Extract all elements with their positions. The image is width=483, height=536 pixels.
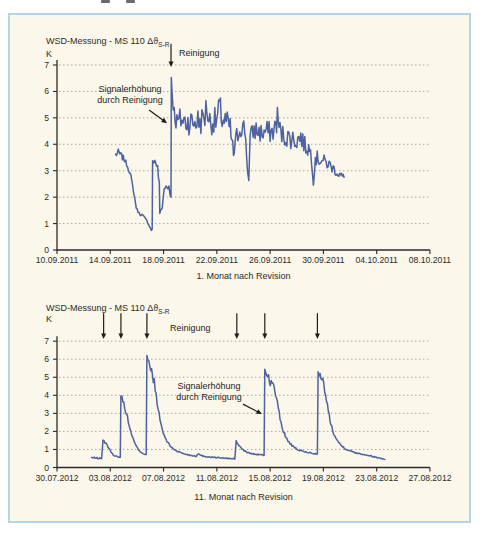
cleaning-arrow-head: [144, 333, 149, 339]
y-tick-label: 2: [44, 426, 49, 436]
cleaning-arrow-head: [118, 333, 123, 339]
signal-annotation-line1: Signalerhöhung: [98, 84, 161, 94]
x-tick-label: 27.08.2012: [408, 473, 451, 483]
cleaning-arrow-head: [262, 333, 267, 339]
x-tick-label: 08.10.2011: [409, 255, 452, 265]
signal-increase-arrow-head: [161, 118, 167, 123]
y-tick-label: 4: [44, 390, 49, 400]
signal-increase-arrow: [243, 404, 259, 412]
y-tick-label: 0: [44, 245, 49, 255]
signal-annotation-line1: Signalerhöhung: [177, 381, 240, 391]
x-tick-label: 26.09.2011: [249, 255, 292, 265]
y-tick-label: 3: [44, 408, 49, 418]
y-tick-label: 0: [44, 463, 49, 473]
y-tick-label: 7: [44, 60, 49, 70]
y-axis-unit-label: K: [46, 49, 52, 59]
y-tick-label: 5: [44, 113, 49, 123]
x-tick-label: 30.07.2012: [35, 473, 78, 483]
y-tick-label: 1: [44, 219, 49, 229]
x-tick-label: 10.09.2011: [36, 255, 79, 265]
y-axis-unit-label: K: [46, 314, 52, 324]
x-tick-label: 03.08.2012: [89, 473, 132, 483]
signal-increase-arrow: [149, 110, 164, 121]
x-tick-label: 15.08.2012: [249, 473, 292, 483]
x-tick-label: 11.08.2012: [196, 473, 239, 483]
x-tick-label: 18.09.2011: [142, 255, 185, 265]
series-line: [92, 356, 385, 460]
x-tick-label: 07.08.2012: [142, 473, 185, 483]
signal-annotation-line2: durch Reinigung: [97, 95, 163, 105]
cleaning-annotation-label: Reinigung: [179, 48, 220, 58]
y-tick-label: 6: [44, 86, 49, 96]
title-subscript: S-R: [158, 41, 169, 48]
y-tick-label: 7: [44, 336, 49, 346]
x-tick-label: 23.08.2012: [355, 473, 398, 483]
cleaning-arrow-head: [101, 333, 106, 339]
y-tick-label: 5: [44, 372, 49, 382]
cleaning-annotation-label: Reinigung: [170, 323, 211, 333]
signal-increase-annotation: Signalerhöhung durch Reinigung: [92, 84, 168, 106]
y-tick-label: 4: [44, 139, 49, 149]
y-tick-label: 6: [44, 354, 49, 364]
cleaning-arrow-head: [315, 333, 320, 339]
y-tick-label: 1: [44, 444, 49, 454]
title-subscript: S-R: [158, 308, 169, 315]
signal-increase-annotation: Signalerhöhung durch Reinigung: [169, 381, 249, 403]
signal-annotation-line2: durch Reinigung: [176, 392, 242, 402]
x-axis-title: 1. Monat nach Revision: [57, 271, 430, 281]
x-tick-label: 04.10.2011: [355, 255, 398, 265]
chart-title: WSD-Messung - MS 110 ΔϑS-R: [46, 303, 170, 315]
x-axis-title: 11. Monat nach Revision: [57, 492, 430, 502]
x-tick-label: 22.09.2011: [196, 255, 239, 265]
y-tick-label: 2: [44, 192, 49, 202]
cleaning-arrow-head: [234, 333, 239, 339]
cleaning-arrow-head: [169, 62, 174, 68]
x-tick-label: 14.09.2011: [89, 255, 132, 265]
x-tick-label: 19.08.2012: [302, 473, 345, 483]
figure-page: 0123456710.09.201114.09.201118.09.201122…: [0, 0, 483, 536]
x-tick-label: 30.09.2011: [302, 255, 345, 265]
y-tick-label: 3: [44, 166, 49, 176]
chart-title: WSD-Messung - MS 110 ΔϑS-R: [46, 36, 170, 48]
charts-canvas: 0123456710.09.201114.09.201118.09.201122…: [0, 0, 483, 536]
